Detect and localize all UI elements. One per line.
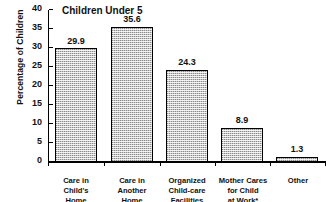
y-tick-label: 40 bbox=[20, 3, 42, 13]
y-tick-label: 35 bbox=[20, 22, 42, 32]
x-separator-tick bbox=[48, 161, 49, 166]
bar-value-label: 1.3 bbox=[276, 144, 318, 154]
y-tick-label: 5 bbox=[20, 136, 42, 146]
y-tick-mark bbox=[49, 123, 53, 124]
x-separator-tick bbox=[160, 161, 161, 166]
category-label-care-in-childs-home: Care in Child's Home bbox=[48, 176, 104, 202]
y-tick-label: 30 bbox=[20, 41, 42, 51]
y-tick-mark bbox=[49, 47, 53, 48]
bar-organized-child-care-facilities[interactable] bbox=[166, 70, 208, 162]
bar-value-label: 35.6 bbox=[111, 14, 153, 24]
y-tick-mark bbox=[49, 161, 53, 162]
bar-value-label: 24.3 bbox=[166, 57, 208, 67]
bar-value-label: 8.9 bbox=[221, 115, 263, 125]
category-label-care-in-another-home: Care in Another Home bbox=[104, 176, 160, 202]
y-tick-mark bbox=[49, 142, 53, 143]
y-tick-label: 25 bbox=[20, 60, 42, 70]
x-separator-tick bbox=[215, 161, 216, 166]
y-tick-mark bbox=[49, 28, 53, 29]
x-separator-tick bbox=[270, 161, 271, 166]
plot-area: 0 5 10 15 20 25 30 35 bbox=[48, 10, 326, 162]
y-tick-mark bbox=[49, 66, 53, 67]
x-separator-tick bbox=[325, 161, 326, 166]
y-tick-label: 0 bbox=[20, 155, 42, 165]
y-tick-label: 20 bbox=[20, 79, 42, 89]
y-tick-label: 15 bbox=[20, 98, 42, 108]
category-label-organized-child-care-facilities: Organized Child-care Facilities bbox=[159, 176, 215, 202]
bar-chart-figure: Percentage of Children Children Under 5 … bbox=[0, 0, 332, 202]
y-tick-mark bbox=[49, 104, 53, 105]
y-axis-line bbox=[48, 10, 49, 162]
category-label-mother-cares-for-child-at-work: Mother Cares for Child at Work* bbox=[213, 176, 273, 202]
y-tick-mark bbox=[49, 9, 53, 10]
bar-mother-cares-for-child-at-work[interactable] bbox=[221, 128, 263, 162]
bar-value-label: 29.9 bbox=[55, 36, 97, 46]
y-tick-mark bbox=[49, 85, 53, 86]
x-separator-tick bbox=[104, 161, 105, 166]
bar-care-in-another-home[interactable] bbox=[111, 27, 153, 162]
bar-care-in-childs-home[interactable] bbox=[55, 48, 97, 162]
bar-other[interactable] bbox=[276, 157, 318, 162]
y-tick-label: 10 bbox=[20, 117, 42, 127]
category-label-other: Other bbox=[270, 176, 326, 186]
